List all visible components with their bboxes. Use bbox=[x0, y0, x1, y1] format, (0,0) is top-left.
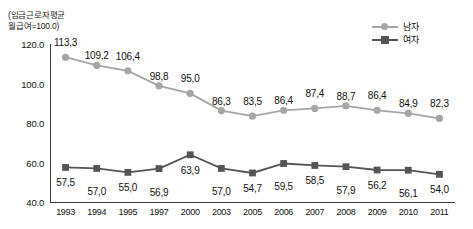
data-point-marker bbox=[156, 165, 163, 172]
data-point-marker bbox=[124, 169, 131, 176]
data-point-marker bbox=[187, 151, 194, 158]
data-point-label: 113,3 bbox=[44, 37, 88, 48]
data-point-label: 82,3 bbox=[417, 98, 461, 109]
data-point-label: 54,0 bbox=[417, 184, 461, 195]
data-point-marker bbox=[62, 164, 69, 171]
data-point-marker bbox=[343, 163, 350, 170]
chart-container: (임금근로자평균 월급여=100.0) 남자 여자 40.060.080.010… bbox=[0, 0, 473, 229]
data-point-label: 63,9 bbox=[168, 165, 212, 176]
data-point-marker bbox=[342, 102, 349, 109]
data-point-marker bbox=[93, 165, 100, 172]
data-point-marker bbox=[249, 112, 256, 119]
data-point-marker bbox=[311, 105, 318, 112]
data-point-marker bbox=[280, 160, 287, 167]
data-point-marker bbox=[124, 67, 131, 74]
series-line-남자 bbox=[66, 57, 440, 118]
data-point-marker bbox=[249, 170, 256, 177]
data-point-label: 106,4 bbox=[106, 51, 150, 62]
data-point-marker bbox=[374, 107, 381, 114]
data-point-marker bbox=[155, 82, 162, 89]
data-point-marker bbox=[374, 167, 381, 174]
data-point-marker bbox=[218, 107, 225, 114]
data-point-label: 56,9 bbox=[137, 187, 181, 198]
data-point-marker bbox=[311, 162, 318, 169]
data-point-marker bbox=[218, 165, 225, 172]
data-point-marker bbox=[436, 115, 443, 122]
data-point-marker bbox=[62, 54, 69, 61]
data-point-marker bbox=[405, 110, 412, 117]
data-point-marker bbox=[405, 167, 412, 174]
data-point-marker bbox=[436, 171, 443, 178]
data-point-marker bbox=[280, 107, 287, 114]
data-point-label: 95,0 bbox=[168, 73, 212, 84]
data-point-marker bbox=[93, 62, 100, 69]
data-point-marker bbox=[187, 90, 194, 97]
